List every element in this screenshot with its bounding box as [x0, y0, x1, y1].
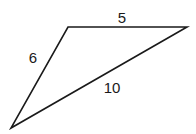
triangle-diagram: 5 6 10: [0, 0, 196, 134]
triangle-shape: [11, 27, 187, 128]
side-label-left: 6: [29, 49, 37, 66]
triangle-figure: 5 6 10: [0, 0, 196, 134]
side-label-top: 5: [118, 9, 126, 26]
side-label-hypotenuse: 10: [104, 79, 121, 96]
